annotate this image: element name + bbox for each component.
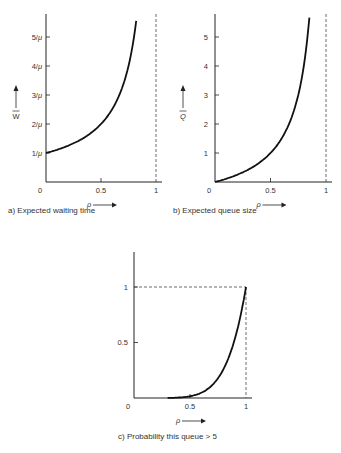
x-axis-label: ρ bbox=[175, 416, 181, 425]
y-tick-label: 0.5 bbox=[118, 338, 128, 347]
figure-canvas: 00.511/μ2/μ3/μ4/μ5/μρW00.5112345ρQ00.510… bbox=[0, 0, 341, 453]
caption-c: c) Probability this queue > 5 bbox=[118, 432, 217, 441]
y-tick-label: 5/μ bbox=[32, 33, 42, 42]
x-tick-label: 1 bbox=[244, 402, 248, 411]
x-tick-label: 0.5 bbox=[185, 402, 195, 411]
chart-c: 00.510.51ρ bbox=[118, 252, 252, 425]
y-tick-label: 4 bbox=[204, 62, 208, 71]
y-tick-label: 2/μ bbox=[32, 120, 42, 129]
caption-b: b) Expected queue size bbox=[173, 206, 257, 215]
data-curve bbox=[215, 18, 309, 182]
y-tick-label: 3 bbox=[204, 91, 208, 100]
y-tick-label: 5 bbox=[204, 33, 208, 42]
x-tick-label: 1 bbox=[324, 186, 328, 195]
x-tick-label: 0 bbox=[207, 186, 211, 195]
x-tick-label: 0 bbox=[38, 186, 42, 195]
data-curve bbox=[46, 21, 136, 153]
y-tick-label: 1 bbox=[204, 149, 208, 158]
chart-a: 00.511/μ2/μ3/μ4/μ5/μρW bbox=[12, 14, 162, 209]
x-tick-label: 0.5 bbox=[265, 186, 275, 195]
y-axis-label: W bbox=[12, 112, 20, 121]
caption-a: a) Expected waiting time bbox=[8, 206, 95, 215]
x-tick-label: 0.5 bbox=[96, 186, 106, 195]
y-tick-label: 1 bbox=[124, 283, 128, 292]
x-tick-label: 0 bbox=[126, 402, 130, 411]
y-axis-label: Q bbox=[180, 112, 186, 121]
chart-b: 00.5112345ρQ bbox=[180, 14, 333, 209]
x-tick-label: 1 bbox=[154, 186, 158, 195]
y-tick-label: 2 bbox=[204, 120, 208, 129]
data-curve bbox=[168, 287, 246, 398]
y-tick-label: 3/μ bbox=[32, 91, 42, 100]
y-tick-label: 4/μ bbox=[32, 62, 42, 71]
y-tick-label: 1/μ bbox=[32, 149, 42, 158]
